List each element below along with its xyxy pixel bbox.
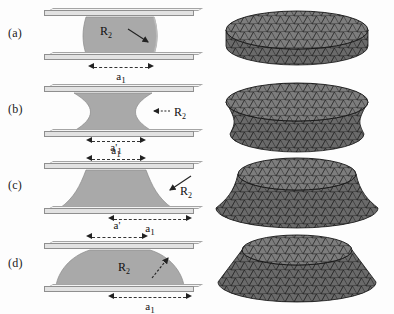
panel-label-d: (d) (8, 256, 44, 271)
dim-arrow-right-d-top (142, 233, 148, 239)
radius-letter-d: R (118, 260, 126, 274)
radius-letter-a: R (100, 24, 108, 38)
top-plate-face-c (44, 163, 194, 169)
bottom-plate-face-c (44, 208, 194, 214)
liquid-bridge-figure: (a) R2 (0, 0, 394, 314)
panel-label-c: (c) (8, 178, 44, 193)
schematic-d: R2 a' (44, 230, 204, 308)
top-plate-b (44, 86, 200, 94)
radius-letter-b: R (174, 105, 182, 119)
dim-label-a1prime-c: a'1 (86, 141, 146, 156)
dim-prime-d-top: ' (118, 219, 120, 231)
radius-subscript-a: 2 (108, 31, 112, 40)
panel-a: (a) R2 (0, 0, 394, 78)
dim-line-c-top (92, 159, 140, 160)
dim-arrow-right-d-bot (186, 293, 192, 299)
radius-subscript-b: 2 (182, 112, 186, 121)
dimension-a1-d: a1 (108, 296, 192, 297)
top-plate-c (44, 163, 200, 171)
dim-line-d-bot (114, 297, 186, 298)
bottom-plate-d (44, 286, 200, 294)
radius-label-a: R2 (100, 24, 112, 40)
top-plate-face-d (44, 243, 194, 249)
top-plate-face-a (44, 10, 194, 16)
top-plate-d (44, 243, 200, 251)
panel-b: (b) R2 (0, 76, 394, 154)
bottom-plate-face-d (44, 286, 194, 292)
dim-line-a (94, 67, 148, 68)
radius-subscript-c: 2 (188, 191, 192, 200)
bottom-plate-a (44, 54, 200, 62)
mesh-a (204, 0, 390, 78)
mesh-b (204, 76, 390, 154)
dim-arrow-right-a (148, 63, 154, 69)
panel-label-a: (a) (8, 26, 44, 41)
schematic-a: R2 a1 (44, 0, 204, 78)
bottom-plate-c (44, 208, 200, 216)
dim-label-aprime-d: a' (87, 219, 147, 231)
mesh-d (204, 230, 390, 308)
mesh-c (204, 152, 390, 230)
panel-d: (d) R2 (0, 230, 394, 308)
mesh-svg-c (204, 152, 390, 230)
panel-c: (c) R2 (0, 152, 394, 230)
radius-label-c: R2 (180, 184, 192, 200)
dim-sub-c-top: 1 (117, 146, 122, 156)
dim-sub-d-bot: 1 (150, 305, 155, 314)
top-plate-a (44, 10, 200, 18)
bottom-plate-face-a (44, 54, 194, 60)
dim-label-a1-d: a1 (120, 300, 180, 314)
panel-label-b: (b) (8, 102, 44, 117)
dim-arrow-right-c-bot (186, 215, 192, 221)
mesh-svg-d (204, 230, 390, 308)
bottom-plate-b (44, 131, 200, 139)
dimension-a1-a: a1 (88, 66, 154, 67)
radius-label-b: R2 (174, 105, 186, 121)
dimension-aprime-d: a' (86, 236, 148, 237)
dimension-a1prime-c: a'1 (86, 158, 146, 159)
bottom-plate-face-b (44, 131, 194, 137)
radius-letter-c: R (180, 184, 188, 198)
dim-line-d-top (92, 237, 142, 238)
radius-label-d: R2 (118, 260, 130, 276)
mesh-svg-b (204, 76, 390, 154)
mesh-svg-a (204, 0, 390, 78)
top-plate-face-b (44, 86, 194, 92)
radius-subscript-d: 2 (126, 267, 130, 276)
